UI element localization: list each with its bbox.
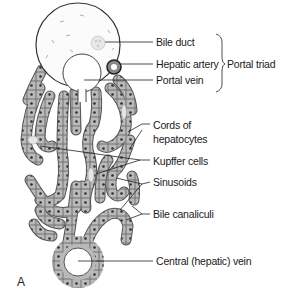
central-vein	[56, 240, 100, 284]
label-bile-duct: Bile duct	[156, 36, 194, 48]
label-cords-line2: hepatocytes	[153, 133, 207, 145]
bile-duct	[91, 36, 105, 50]
label-kupffer-cells: Kupffer cells	[153, 155, 208, 167]
label-bile-canaliculi: Bile canaliculi	[153, 208, 214, 220]
label-central-vein: Central (hepatic) vein	[156, 255, 251, 267]
panel-letter: A	[17, 275, 25, 289]
hepatic-artery	[107, 60, 121, 74]
label-hepatic-artery: Hepatic artery	[156, 58, 219, 70]
label-portal-vein: Portal vein	[156, 74, 203, 86]
label-cords-line1: Cords of	[153, 119, 191, 131]
label-sinusoids: Sinusoids	[153, 176, 197, 188]
label-portal-triad: Portal triad	[227, 58, 275, 70]
